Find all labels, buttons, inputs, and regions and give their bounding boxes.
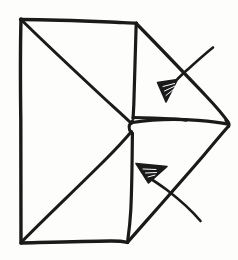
left-vertical-edge <box>20 19 21 243</box>
envelope-fold-sketch: Hand-drawn envelope fold diagram Pen-and… <box>0 0 238 260</box>
figure-root: Hand-drawn envelope fold diagram Pen-and… <box>0 0 238 260</box>
paper-background <box>0 0 238 260</box>
